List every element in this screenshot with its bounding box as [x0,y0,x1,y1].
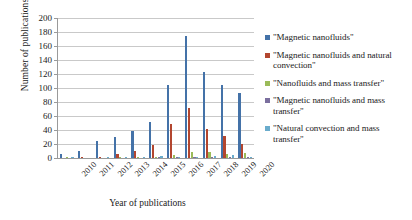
year-bar-group [221,18,234,158]
x-tick-label: 2013 [133,160,151,178]
legend-entry: "Magnetic nanofluids" [265,32,412,43]
bar [66,157,68,158]
legend-swatch-icon [265,53,270,58]
bar [137,157,139,158]
year-bar-group [96,18,109,158]
x-tick-label: 2017 [205,160,223,178]
bar [250,157,252,158]
y-tick-label: 40 [22,126,52,135]
legend-swatch-icon [265,81,270,86]
bar [188,108,190,158]
x-tick-label: 2014 [151,160,169,178]
y-tick-label: 160 [22,42,52,51]
bar [178,157,180,158]
year-bar-group [167,18,180,158]
bar [96,141,98,158]
publications-bar-chart: Number of publications 20018016014012010… [0,0,412,220]
x-tick-label: 2011 [98,160,116,178]
x-tick-label: 2018 [222,160,240,178]
y-tick-label: 120 [22,70,52,79]
x-tick-label: 2019 [240,160,258,178]
legend-entry: "Magnetic nanofluids and natural convect… [265,50,412,71]
bar [143,157,145,158]
y-tick-label: 140 [22,56,52,65]
legend-entry: "Natural convection and mass transfer" [265,123,412,144]
bar [214,156,216,158]
x-tick-label: 2016 [187,160,205,178]
legend-entry: "Nanofluids and mass transfer" [265,78,412,89]
legend-label: "Magnetic nanofluids" [273,32,354,43]
y-tick-label: 60 [22,112,52,121]
plot-area [57,18,254,159]
y-tick-label: 20 [22,140,52,149]
bar [71,157,73,158]
bars-layer [58,18,254,158]
legend-swatch-icon [265,35,270,40]
legend-label: "Magnetic nanofluids and natural convect… [273,50,412,71]
year-bar-group [131,18,144,158]
year-bar-group [114,18,127,158]
year-bar-group [203,18,216,158]
y-axis-tick [54,158,58,159]
legend-label: "Nanofluids and mass transfer" [273,78,384,89]
bar [119,157,121,158]
legend-label: "Natural convection and mass transfer" [273,123,412,144]
legend-entry: "Magnetic nanofluids and mass transfer" [265,95,412,116]
bar [81,157,83,158]
x-tick-label: 2020 [258,160,276,178]
legend-swatch-icon [265,126,270,131]
bar [196,157,198,158]
x-axis-tick-labels: 2010201120122013201420152016201720182019… [57,160,257,194]
y-axis-tick-labels: 200180160140120100806040200 [22,12,52,160]
bar [99,157,101,158]
year-bar-group [78,18,91,158]
chart-legend: "Magnetic nanofluids""Magnetic nanofluid… [265,32,412,151]
y-tick-label: 0 [22,154,52,163]
year-bar-group [238,18,251,158]
legend-swatch-icon [265,98,270,103]
x-tick-label: 2010 [80,160,98,178]
bar [60,154,62,158]
legend-label: "Magnetic nanofluids and mass transfer" [273,95,412,116]
y-tick-label: 80 [22,98,52,107]
x-tick-label: 2015 [169,160,187,178]
x-axis-title: Year of publications [40,198,255,208]
y-tick-label: 200 [22,14,52,23]
bar [125,157,127,158]
year-bar-group [60,18,73,158]
x-tick-label: 2012 [116,160,134,178]
bar [107,157,109,158]
bar [170,124,172,158]
year-bar-group [185,18,198,158]
bar [232,155,234,158]
y-tick-label: 100 [22,84,52,93]
year-bar-group [149,18,162,158]
y-tick-label: 180 [22,28,52,37]
bar [160,156,162,158]
